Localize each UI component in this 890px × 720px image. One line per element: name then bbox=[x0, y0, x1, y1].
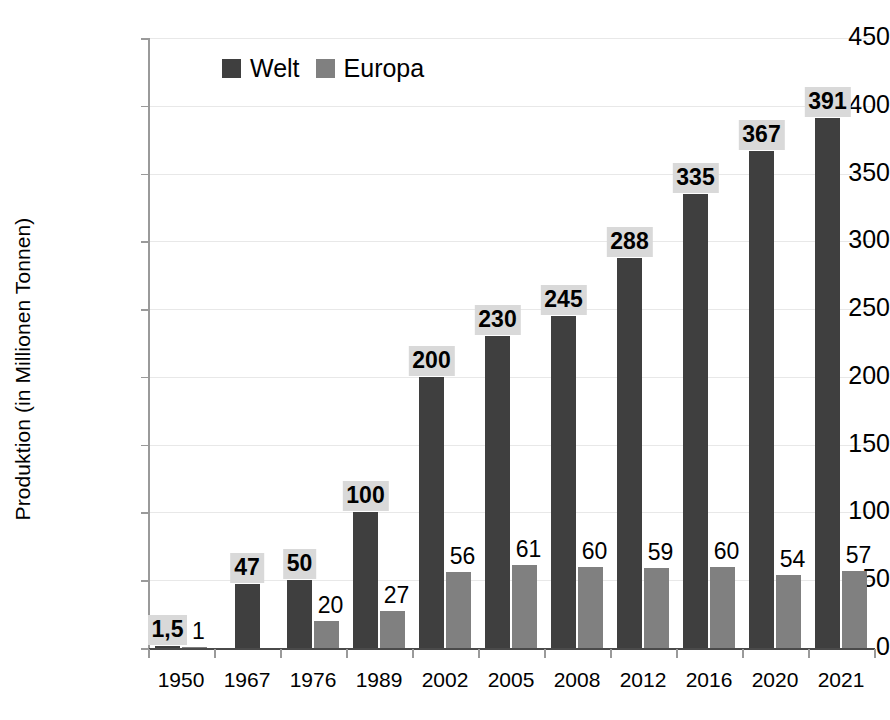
legend-swatch-icon bbox=[316, 59, 335, 78]
bar-europa bbox=[314, 621, 339, 648]
bar-welt bbox=[485, 336, 510, 648]
data-label-europa: 59 bbox=[646, 539, 676, 566]
bar-welt bbox=[617, 258, 642, 648]
data-label-welt: 47 bbox=[230, 553, 264, 583]
x-axis-tick-label: 2020 bbox=[752, 668, 799, 692]
data-label-europa: 61 bbox=[514, 536, 544, 563]
data-label-welt: 1,5 bbox=[148, 615, 188, 645]
y-axis-title: Produktion (in Millionen Tonnen) bbox=[0, 49, 46, 689]
x-axis-tick-label: 1950 bbox=[158, 668, 205, 692]
bar-welt bbox=[353, 512, 378, 648]
bar-welt bbox=[551, 316, 576, 648]
data-label-europa: 27 bbox=[382, 582, 412, 609]
data-label-europa: 56 bbox=[448, 543, 478, 570]
x-axis-tick-mark bbox=[412, 649, 414, 658]
x-axis-tick-label: 2021 bbox=[818, 668, 865, 692]
x-axis-tick-mark bbox=[610, 649, 612, 658]
data-label-welt: 335 bbox=[672, 163, 718, 193]
data-label-europa: 60 bbox=[712, 538, 742, 565]
bar-europa bbox=[710, 567, 735, 648]
bar-welt bbox=[815, 118, 840, 648]
chart-legend: WeltEuropa bbox=[222, 56, 424, 81]
data-label-europa: 54 bbox=[778, 546, 808, 573]
bar-europa bbox=[578, 567, 603, 648]
bar-europa bbox=[644, 568, 669, 648]
bar-welt bbox=[749, 151, 774, 648]
x-axis-tick-mark bbox=[280, 649, 282, 658]
data-label-europa: 20 bbox=[316, 592, 346, 619]
x-axis-tick-mark bbox=[478, 649, 480, 658]
data-label-welt: 288 bbox=[606, 227, 652, 257]
x-axis-tick-label: 1989 bbox=[356, 668, 403, 692]
x-axis-tick-mark bbox=[808, 649, 810, 658]
bar-europa bbox=[182, 647, 207, 649]
data-label-europa: 1 bbox=[190, 618, 207, 645]
x-axis-tick-label: 2008 bbox=[554, 668, 601, 692]
bar-welt bbox=[419, 377, 444, 648]
bar-welt bbox=[235, 584, 260, 648]
x-axis-tick-mark bbox=[214, 649, 216, 658]
data-label-welt: 230 bbox=[474, 305, 520, 335]
data-label-europa: 60 bbox=[580, 538, 610, 565]
x-axis-tick-label: 2005 bbox=[488, 668, 535, 692]
bar-europa bbox=[512, 565, 537, 648]
data-label-europa: 57 bbox=[844, 542, 874, 569]
x-axis-tick-mark bbox=[676, 649, 678, 658]
x-axis-tick-label: 2002 bbox=[422, 668, 469, 692]
legend-swatch-icon bbox=[222, 59, 241, 78]
x-axis-tick-mark bbox=[874, 649, 876, 658]
x-axis-tick-mark bbox=[346, 649, 348, 658]
x-axis-tick-label: 2016 bbox=[686, 668, 733, 692]
bar-europa bbox=[446, 572, 471, 648]
data-label-welt: 50 bbox=[283, 549, 317, 579]
legend-label: Europa bbox=[344, 56, 425, 81]
bar-europa bbox=[842, 571, 867, 648]
data-label-welt: 367 bbox=[738, 120, 784, 150]
x-axis-tick-mark bbox=[544, 649, 546, 658]
x-axis-tick-label: 2012 bbox=[620, 668, 667, 692]
data-label-welt: 245 bbox=[540, 285, 586, 315]
legend-item-europa[interactable]: Europa bbox=[316, 56, 425, 81]
bar-chart: Produktion (in Millionen Tonnen) 4504003… bbox=[0, 0, 890, 720]
bar-welt bbox=[155, 646, 180, 648]
x-axis-tick-label: 1967 bbox=[224, 668, 271, 692]
data-label-welt: 100 bbox=[342, 481, 388, 511]
bar-welt bbox=[287, 580, 312, 648]
legend-label: Welt bbox=[250, 56, 300, 81]
x-axis-tick-mark bbox=[742, 649, 744, 658]
data-label-welt: 391 bbox=[804, 87, 850, 117]
legend-item-welt[interactable]: Welt bbox=[222, 56, 300, 81]
bar-welt bbox=[683, 194, 708, 648]
bar-europa bbox=[776, 575, 801, 648]
bar-europa bbox=[380, 611, 405, 648]
x-axis-tick-label: 1976 bbox=[290, 668, 337, 692]
x-axis-tick-mark bbox=[148, 649, 150, 658]
data-label-welt: 200 bbox=[408, 346, 454, 376]
